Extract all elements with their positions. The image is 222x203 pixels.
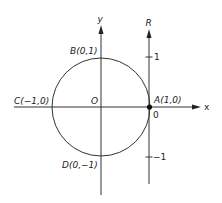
r-tick-label-minus-one: −1 — [153, 152, 166, 162]
r-axis-label: R — [146, 18, 152, 28]
y-axis-arrow-icon — [99, 25, 104, 34]
r-tick-label-zero: 0 — [153, 110, 159, 120]
x-axis-arrow-icon — [192, 105, 201, 110]
unit-circle-diagram: x y R 1 0 −1 O A(1,0) B(0,1) C(−1,0) D(0… — [0, 0, 222, 203]
r-axis-arrow-icon — [147, 29, 152, 38]
origin-label: O — [91, 96, 98, 106]
point-a-dot — [147, 104, 152, 109]
point-c-label: C(−1,0) — [14, 96, 49, 106]
point-a-label: A(1,0) — [153, 95, 182, 105]
x-axis-label: x — [204, 102, 210, 112]
y-axis — [99, 25, 104, 195]
r-tick-label-plus-one: 1 — [154, 52, 160, 62]
point-b-label: B(0,1) — [70, 46, 98, 56]
point-d-label: D(0,−1) — [62, 160, 98, 170]
y-axis-label: y — [97, 14, 104, 24]
